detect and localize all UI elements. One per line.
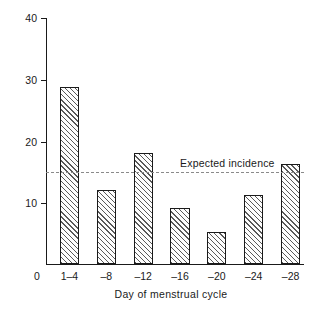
x-tick-label: –28 <box>282 270 300 282</box>
y-tick-label: 30 <box>25 74 37 86</box>
y-tick-mark <box>41 80 46 81</box>
y-tick: 30 <box>46 80 47 81</box>
bar <box>134 153 153 264</box>
x-axis-line <box>46 264 304 265</box>
y-tick-label: 20 <box>25 136 37 148</box>
expected-incidence-line <box>46 172 304 173</box>
x-tick-label: –24 <box>245 270 263 282</box>
y-tick-mark <box>41 203 46 204</box>
bar <box>207 232 226 264</box>
y-tick-label: 40 <box>25 12 37 24</box>
bar <box>97 190 116 264</box>
y-tick-mark <box>41 142 46 143</box>
bar-chart-figure: % of offences 10203040 Expected incidenc… <box>0 0 314 314</box>
x-tick-label: –8 <box>100 270 112 282</box>
x-tick-label: –12 <box>134 270 152 282</box>
bar <box>244 195 263 264</box>
plot-area: 10203040 Expected incidence 1–4–8–12–16–… <box>46 18 304 265</box>
bar <box>281 164 300 264</box>
x-axis-origin-label: 0 <box>34 270 40 282</box>
y-tick-label: 10 <box>25 197 37 209</box>
y-tick: 40 <box>46 18 47 19</box>
x-tick-label: 1–4 <box>61 270 79 282</box>
x-tick-label: –20 <box>208 270 226 282</box>
x-tick-label: –16 <box>171 270 189 282</box>
x-axis-title: Day of menstrual cycle <box>40 288 302 300</box>
bar <box>60 87 79 264</box>
y-tick: 20 <box>46 142 47 143</box>
expected-incidence-label: Expected incidence <box>180 157 275 169</box>
y-tick: 10 <box>46 203 47 204</box>
bar <box>170 208 189 264</box>
y-tick-mark <box>41 18 46 19</box>
